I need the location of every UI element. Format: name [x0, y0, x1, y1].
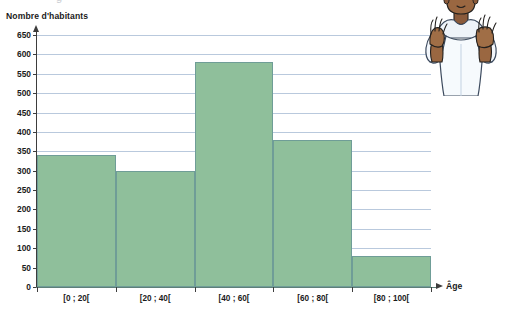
- y-tick-mark: [33, 93, 37, 94]
- person-with-raised-hands-illustration: [418, 0, 504, 96]
- y-tick-label: 0: [1, 282, 31, 292]
- y-tick-mark: [33, 151, 37, 152]
- x-category-label: [0 ; 20[: [63, 294, 89, 303]
- y-tick-label: 650: [1, 30, 31, 40]
- y-tick-label: 50: [1, 263, 31, 273]
- y-axis-title: Nombre d'habitants: [6, 11, 88, 21]
- x-axis-line: [36, 287, 436, 288]
- x-category-label: [40 ; 60[: [219, 294, 250, 303]
- gridline: [37, 54, 431, 55]
- bar-40-60[interactable]: [195, 62, 274, 287]
- plot-area: [37, 35, 431, 287]
- y-tick-label: 150: [1, 224, 31, 234]
- cropped-title-fragment-left: g: [56, 0, 62, 3]
- x-tick-mark: [273, 287, 274, 292]
- x-tick-mark: [352, 287, 353, 292]
- y-tick-label: 450: [1, 108, 31, 118]
- x-tick-mark: [37, 287, 38, 292]
- y-tick-label: 200: [1, 204, 31, 214]
- y-tick-label: 250: [1, 185, 31, 195]
- y-tick-mark: [33, 132, 37, 133]
- x-category-label: [20 ; 40[: [140, 294, 171, 303]
- x-axis-title: Âge: [446, 281, 462, 291]
- y-tick-label: 600: [1, 49, 31, 59]
- y-tick-label: 400: [1, 127, 31, 137]
- y-tick-mark: [33, 74, 37, 75]
- y-tick-label: 500: [1, 88, 31, 98]
- cropped-title-fragment-right: —: [236, 0, 247, 3]
- bar-80-100[interactable]: [352, 256, 431, 287]
- bar-0-20[interactable]: [37, 155, 116, 287]
- y-tick-mark: [33, 113, 37, 114]
- x-tick-mark: [116, 287, 117, 292]
- y-tick-label: 550: [1, 69, 31, 79]
- x-category-label: [80 ; 100[: [374, 294, 410, 303]
- bar-20-40[interactable]: [116, 171, 195, 287]
- y-tick-label: 100: [1, 243, 31, 253]
- y-tick-label: 350: [1, 146, 31, 156]
- y-tick-mark: [33, 35, 37, 36]
- x-tick-mark: [195, 287, 196, 292]
- x-tick-mark: [431, 287, 432, 292]
- x-category-label: [60 ; 80[: [297, 294, 328, 303]
- y-tick-label: 300: [1, 166, 31, 176]
- y-tick-label-group: 050100150200250300350400450500550600650: [0, 35, 31, 287]
- bar-60-80[interactable]: [273, 140, 352, 287]
- x-axis-arrow-icon: [436, 283, 443, 289]
- gridline: [37, 35, 431, 36]
- y-tick-mark: [33, 54, 37, 55]
